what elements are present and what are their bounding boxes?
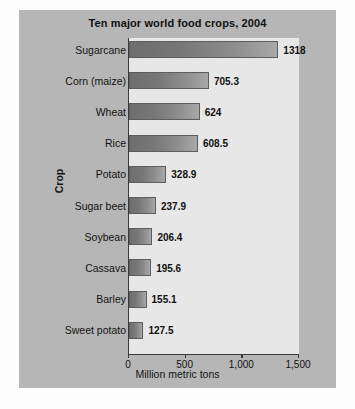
bar-row: 624Wheat: [129, 103, 299, 120]
bar-potato: [129, 166, 166, 183]
x-axis-title: Million metric tons: [19, 368, 336, 380]
category-label: Sugar beet: [75, 200, 126, 212]
bar-value-label: 155.1: [152, 294, 177, 305]
bar-row: 195.6Cassava: [129, 259, 299, 276]
bar-value-label: 195.6: [156, 262, 181, 273]
bar-row: 155.1Barley: [129, 291, 299, 308]
bar-value-label: 127.5: [148, 325, 173, 336]
x-tick-mark: [241, 354, 242, 358]
y-axis-title: Crop: [53, 169, 65, 194]
bar-row: 206.4Soybean: [129, 228, 299, 245]
chart-page: Ten major world food crops, 2004 Crop 13…: [0, 0, 355, 409]
bar-row: 1318Sugarcane: [129, 41, 299, 58]
category-label: Wheat: [96, 106, 126, 118]
bar-row: 237.9Sugar beet: [129, 197, 299, 214]
bar-row: 127.5Sweet potato: [129, 322, 299, 339]
category-label: Sweet potato: [65, 324, 126, 336]
bar-rice: [129, 135, 198, 152]
bar-corn-maize: [129, 72, 209, 89]
category-label: Corn (maize): [65, 75, 126, 87]
category-label: Soybean: [85, 231, 126, 243]
bar-sugarcane: [129, 41, 278, 58]
bar-value-label: 328.9: [171, 169, 196, 180]
category-label: Cassava: [85, 262, 126, 274]
bar-soybean: [129, 228, 152, 245]
bar-value-label: 608.5: [203, 138, 228, 149]
bar-row: 328.9Potato: [129, 166, 299, 183]
category-label: Barley: [96, 293, 126, 305]
bar-row: 608.5Rice: [129, 135, 299, 152]
bar-row: 705.3Corn (maize): [129, 72, 299, 89]
category-label: Potato: [96, 168, 126, 180]
bar-cassava: [129, 259, 151, 276]
chart-title: Ten major world food crops, 2004: [19, 17, 336, 29]
bar-value-label: 624: [205, 106, 222, 117]
x-tick-mark: [128, 354, 129, 358]
bar-value-label: 237.9: [161, 200, 186, 211]
bar-wheat: [129, 103, 200, 120]
category-label: Rice: [105, 137, 126, 149]
bar-value-label: 1318: [283, 44, 305, 55]
plot-area: 1318Sugarcane705.3Corn (maize)624Wheat60…: [128, 38, 299, 355]
x-tick-mark: [298, 354, 299, 358]
category-label: Sugarcane: [75, 44, 126, 56]
bar-sweet-potato: [129, 322, 143, 339]
bar-barley: [129, 291, 147, 308]
bar-value-label: 206.4: [157, 231, 182, 242]
x-tick-mark: [185, 354, 186, 358]
figure-panel: Ten major world food crops, 2004 Crop 13…: [19, 10, 336, 388]
bar-sugar-beet: [129, 197, 156, 214]
bar-value-label: 705.3: [214, 75, 239, 86]
